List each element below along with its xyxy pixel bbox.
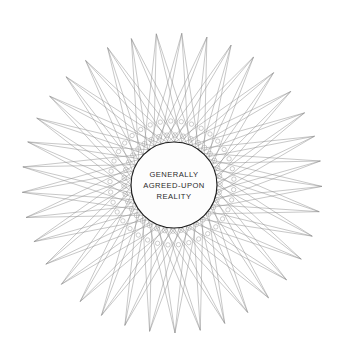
vertex-dot xyxy=(166,243,170,247)
vertex-dot xyxy=(176,242,180,246)
vertex-dot xyxy=(230,167,234,171)
vertex-dot xyxy=(139,127,143,131)
vertex-dot xyxy=(121,219,125,223)
vertex-dot xyxy=(116,149,120,153)
vertex-dot xyxy=(108,190,112,194)
vertex-dot xyxy=(148,123,152,127)
vertex-dot xyxy=(122,141,126,145)
vertex-dot xyxy=(155,241,159,245)
vertex-dot xyxy=(231,187,235,191)
hub-circle xyxy=(131,142,217,228)
vertex-dot xyxy=(187,240,191,244)
vertex-dot xyxy=(108,179,112,183)
vertex-dot xyxy=(130,133,134,137)
vertex-dot xyxy=(199,126,203,130)
central-hub-disc xyxy=(131,142,217,228)
vertex-dot xyxy=(206,231,210,235)
vertex-dot xyxy=(220,217,224,221)
vertex-dot xyxy=(128,226,132,230)
vertex-dot xyxy=(145,238,149,242)
vertex-dot xyxy=(208,132,212,136)
vertex-dot xyxy=(226,208,230,212)
vertex-dot xyxy=(214,225,218,229)
vertex-dot xyxy=(169,119,173,123)
figure-root: GENERALLY AGREED-UPON REALITY xyxy=(0,0,347,362)
vertex-dot xyxy=(179,120,183,124)
vertex-dot xyxy=(158,120,162,124)
vertex-dot xyxy=(229,198,233,202)
vertex-dot xyxy=(111,200,115,204)
star-polygon-canvas xyxy=(0,0,347,362)
vertex-dot xyxy=(115,210,119,214)
vertex-dot xyxy=(136,233,140,237)
vertex-dot xyxy=(196,237,200,241)
vertex-dot xyxy=(216,139,220,143)
vertex-dot xyxy=(112,159,116,163)
vertex-dot xyxy=(232,177,236,181)
vertex-dot xyxy=(189,122,193,126)
vertex-dot xyxy=(227,157,231,161)
vertex-dot xyxy=(109,169,113,173)
vertex-dot xyxy=(222,147,226,151)
